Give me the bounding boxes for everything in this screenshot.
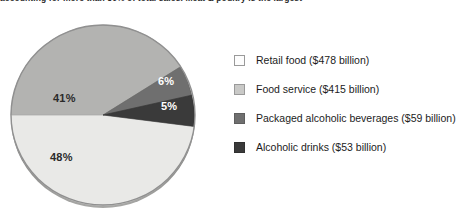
legend-label: Packaged alcoholic beverages ($59 billio… [256, 113, 456, 124]
chart-legend: Retail food ($478 billion) Food service … [234, 46, 468, 162]
legend-item-packaged-alcoholic-beverages: Packaged alcoholic beverages ($59 billio… [234, 104, 468, 133]
pie-slice-retail-food [11, 115, 194, 205]
legend-item-alcoholic-drinks: Alcoholic drinks ($53 billion) [234, 133, 468, 162]
slice-label-packaged-alcoholic-beverages: 6% [158, 75, 174, 87]
legend-swatch-icon [234, 113, 245, 124]
pie-chart-svg [9, 21, 199, 209]
slice-label-food-service: 41% [53, 92, 76, 104]
legend-label: Retail food ($478 billion) [256, 55, 369, 66]
legend-item-retail-food: Retail food ($478 billion) [234, 46, 468, 75]
legend-swatch-icon [234, 55, 245, 66]
legend-swatch-icon [234, 84, 245, 95]
legend-swatch-icon [234, 142, 245, 153]
legend-label: Alcoholic drinks ($53 billion) [256, 142, 386, 153]
slice-label-retail-food: 48% [50, 151, 73, 163]
caption-text: accounting for more than 80% of total sa… [0, 0, 468, 5]
legend-label: Food service ($415 billion) [256, 84, 379, 95]
slice-label-alcoholic-drinks: 5% [161, 100, 177, 112]
pie-chart: 41% 48% 6% 5% [9, 21, 199, 209]
legend-item-food-service: Food service ($415 billion) [234, 75, 468, 104]
